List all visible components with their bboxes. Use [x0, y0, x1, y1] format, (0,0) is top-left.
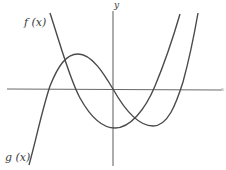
g-label: g (x) — [5, 152, 30, 163]
x-axis — [7, 89, 222, 90]
f-label: f (x) — [24, 17, 46, 28]
y-axis-label: y — [114, 1, 119, 10]
curve-f — [50, 13, 180, 128]
x-axis-label: x — [221, 86, 224, 92]
